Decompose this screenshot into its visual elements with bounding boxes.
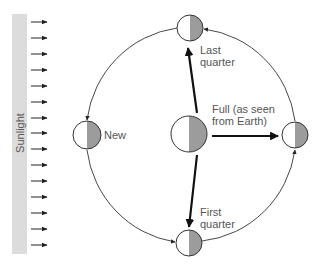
earth — [171, 116, 207, 152]
label-full-line-1: Full (as seen — [212, 103, 275, 115]
label-first-quarter-line-2: quarter — [200, 218, 235, 230]
label-last-quarter-line-1: Last — [200, 44, 235, 56]
moon-first-quarter — [176, 230, 202, 256]
label-first-quarter: First quarter — [200, 206, 235, 230]
label-new: New — [104, 129, 126, 141]
arrow-to-first-quarter — [189, 155, 197, 227]
moon-full — [282, 122, 308, 148]
label-last-quarter-line-2: quarter — [200, 56, 235, 68]
label-last-quarter: Last quarter — [200, 44, 235, 68]
moon-new — [73, 121, 101, 149]
label-full: Full (as seen from Earth) — [212, 103, 275, 127]
moon-phases-diagram: Sunlight New First quarter Full (as seen… — [0, 0, 318, 266]
arrow-to-last-quarter — [188, 48, 197, 113]
moon-last-quarter — [177, 15, 203, 41]
diagram-canvas — [0, 0, 318, 266]
sunlight-arrows — [31, 22, 47, 245]
label-new-line-1: New — [104, 129, 126, 141]
label-first-quarter-line-1: First — [200, 206, 235, 218]
label-full-line-2: from Earth) — [212, 115, 275, 127]
sunlight-label: Sunlight — [14, 113, 26, 153]
